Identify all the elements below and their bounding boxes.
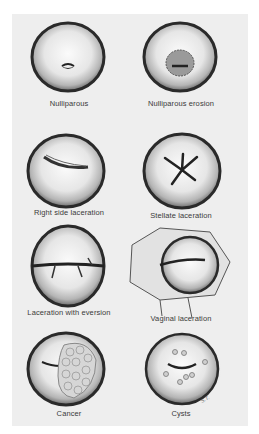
laceration-with-eversion-drawing bbox=[28, 222, 108, 310]
label-vaginal-laceration: Vaginal laceration bbox=[126, 314, 236, 323]
cancer-drawing bbox=[24, 329, 108, 409]
label-cysts: Cysts bbox=[126, 409, 236, 418]
label-stellate-laceration: Stellate laceration bbox=[126, 211, 236, 220]
right-side-laceration-drawing bbox=[24, 131, 108, 211]
nulliparous-cervix-drawing bbox=[28, 19, 108, 95]
label-cancer: Cancer bbox=[14, 409, 124, 418]
label-nulliparous: Nulliparous bbox=[14, 99, 124, 108]
nulliparous-erosion-drawing bbox=[140, 19, 220, 95]
label-right-side-laceration: Right side laceration bbox=[14, 208, 124, 217]
vaginal-laceration-drawing bbox=[130, 228, 230, 318]
label-nulliparous-erosion: Nulliparous erosion bbox=[126, 99, 236, 108]
stellate-laceration-drawing bbox=[140, 131, 224, 211]
label-laceration-with-eversion: Laceration with eversion bbox=[14, 308, 124, 317]
